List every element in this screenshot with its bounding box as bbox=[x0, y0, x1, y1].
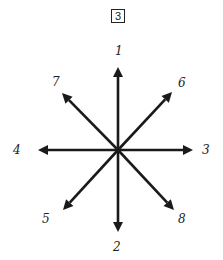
eight-direction-arrow-diagram bbox=[0, 0, 223, 260]
direction-label-3: 3 bbox=[202, 144, 210, 156]
arrow-4 bbox=[38, 145, 118, 155]
arrows-group bbox=[38, 67, 193, 232]
arrow-1 bbox=[113, 67, 123, 150]
arrow-5 bbox=[63, 150, 118, 210]
direction-label-7: 7 bbox=[52, 76, 60, 88]
arrowhead-icon bbox=[113, 222, 123, 232]
direction-label-4: 4 bbox=[13, 144, 21, 156]
arrow-6 bbox=[118, 92, 172, 150]
arrow-shaft bbox=[118, 150, 167, 203]
arrow-shaft bbox=[70, 150, 118, 203]
direction-label-1: 1 bbox=[115, 45, 123, 57]
direction-label-5: 5 bbox=[42, 213, 50, 225]
arrow-2 bbox=[113, 150, 123, 232]
arrowhead-icon bbox=[113, 67, 123, 77]
arrowhead-icon bbox=[38, 145, 48, 155]
direction-label-8: 8 bbox=[178, 213, 186, 225]
arrowhead-icon bbox=[183, 145, 193, 155]
arrow-7 bbox=[62, 93, 118, 150]
arrow-shaft bbox=[118, 99, 165, 150]
arrow-shaft bbox=[69, 100, 118, 150]
direction-label-2: 2 bbox=[113, 241, 121, 253]
direction-label-6: 6 bbox=[178, 77, 186, 89]
arrow-8 bbox=[118, 150, 174, 210]
arrow-3 bbox=[118, 145, 193, 155]
